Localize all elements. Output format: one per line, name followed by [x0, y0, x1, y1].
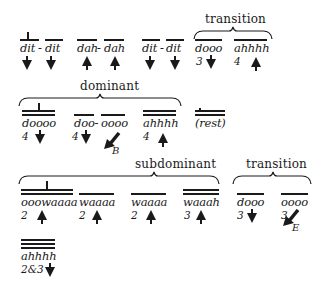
brace-icon: [232, 171, 312, 185]
brace-label-subdominant: subdominant: [135, 158, 216, 171]
syllable: dit: [45, 42, 60, 54]
syllable: oooo: [281, 196, 308, 208]
hyphen: -: [97, 42, 101, 54]
syllable: ooowaaaa: [21, 196, 77, 208]
duration-bar: [183, 189, 219, 191]
syllable: dooo: [237, 196, 264, 208]
syllable: ahhhh: [234, 42, 269, 54]
arrow-up-icon: [36, 210, 48, 224]
syllable: dah: [77, 42, 98, 54]
arrow-down-icon: [144, 56, 156, 70]
syllable: dit: [166, 42, 181, 54]
rest-label: (rest): [195, 117, 226, 129]
syllable: oooo: [101, 117, 128, 129]
marker-label: E: [292, 222, 299, 233]
brace-label-dominant: dominant: [80, 80, 139, 93]
duration-bar: [21, 239, 55, 241]
duration-bar: [195, 110, 225, 112]
beat-count: 4: [234, 56, 241, 67]
syllable: ahhhh: [143, 117, 178, 129]
arrow-down-icon: [169, 56, 181, 70]
brace-icon: [193, 26, 273, 40]
syllable: dit: [20, 42, 35, 54]
arrow-down-icon: [80, 130, 92, 144]
beat-count: 4: [22, 131, 29, 142]
syllable: waaah: [183, 196, 220, 208]
arrow-up-icon: [81, 56, 93, 70]
brace-icon: [18, 93, 182, 107]
beat-count: 4: [143, 131, 150, 142]
syllable: dah: [104, 42, 125, 54]
beat-count: 2: [79, 210, 86, 221]
arrow-up-icon: [157, 133, 169, 147]
beat-count: 3: [196, 56, 203, 67]
arrow-up-icon: [195, 210, 207, 224]
syllable: doo-: [74, 117, 98, 129]
arrow-down-icon: [44, 263, 56, 277]
arrow-down-icon: [205, 55, 217, 69]
duration-bar: [21, 189, 73, 191]
beat-count: 4: [72, 131, 79, 142]
duration-bar: [22, 110, 55, 112]
brace-label-transition: transition: [205, 13, 266, 26]
arrow-down-icon: [246, 209, 258, 223]
brace-icon: [18, 171, 220, 185]
brace-label-transition: transition: [246, 158, 307, 171]
arrow-up-icon: [91, 210, 103, 224]
arrow-up-icon: [145, 210, 157, 224]
syllable: dooo: [195, 42, 222, 54]
syllable: waaaa: [79, 196, 115, 208]
beat-count: 3: [184, 210, 191, 221]
beat-count: 2: [21, 210, 28, 221]
arrow-down-icon: [45, 56, 57, 70]
beat-count: 3: [237, 210, 244, 221]
syllable: doooo: [22, 117, 56, 129]
syllable: dit: [142, 42, 157, 54]
beat-count: 2: [131, 210, 138, 221]
syllable: waaaa: [131, 196, 167, 208]
duration-bar: [21, 243, 55, 245]
syllable: ahhhh: [21, 250, 56, 262]
duration-bar: [143, 110, 176, 112]
marker-label: B: [112, 145, 119, 156]
arrow-down-icon: [21, 56, 33, 70]
arrow-up-icon: [250, 57, 262, 71]
beat-count: 2&3: [21, 264, 44, 275]
hyphen: -: [160, 42, 164, 54]
hyphen: -: [38, 42, 42, 54]
arrow-up-icon: [109, 56, 121, 70]
arrow-down-icon: [34, 130, 46, 144]
